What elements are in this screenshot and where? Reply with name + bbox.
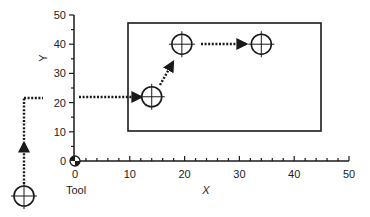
y-tick-label: 10 xyxy=(54,126,66,138)
tool-crosshair-icon xyxy=(11,183,37,209)
workpiece-rect xyxy=(128,23,321,131)
hole-crosshair-icon xyxy=(139,84,165,110)
y-tick-label: 30 xyxy=(54,67,66,79)
tool-approach-path xyxy=(24,98,43,184)
x-axis: 01020304050 xyxy=(72,156,355,180)
origin-marker-icon xyxy=(70,156,80,166)
y-axis: 01020304050 xyxy=(54,9,74,167)
drill-path-diagram: 01020304050 01020304050 Y X Tool xyxy=(0,0,370,217)
y-tick-label: 50 xyxy=(54,9,66,21)
tool-label: Tool xyxy=(66,184,86,196)
x-tick-label: 30 xyxy=(233,168,245,180)
x-tick-label: 10 xyxy=(124,168,136,180)
x-tick-label: 0 xyxy=(72,168,78,180)
y-tick-label: 40 xyxy=(54,38,66,50)
y-axis-title: Y xyxy=(37,54,49,62)
x-tick-label: 40 xyxy=(288,168,300,180)
x-tick-label: 50 xyxy=(343,168,355,180)
path-hole-a-to-b xyxy=(160,62,173,85)
x-tick-label: 20 xyxy=(178,168,190,180)
hole-crosshair-icon xyxy=(248,31,274,57)
x-axis-title: X xyxy=(201,184,210,196)
y-tick-label: 20 xyxy=(54,97,66,109)
y-tick-label: 0 xyxy=(60,155,66,167)
hole-crosshair-icon xyxy=(169,31,195,57)
